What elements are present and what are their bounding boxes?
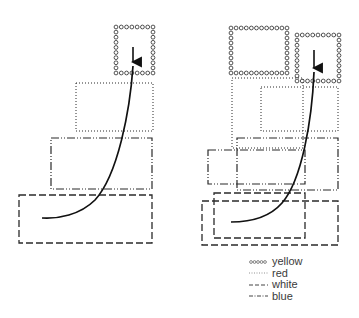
legend-label: blue <box>272 291 293 303</box>
left-blue-box <box>51 138 152 189</box>
right-panel <box>202 26 341 245</box>
legend-label: white <box>272 279 298 291</box>
left-white-box <box>19 195 152 243</box>
legend-swatch-dotted-icon <box>249 270 269 276</box>
legend-item-blue: blue <box>249 291 303 303</box>
left-yellow-box <box>114 25 155 75</box>
legend-swatch-circles-icon <box>249 259 269 265</box>
legend-swatch-dashdot-icon <box>249 293 269 299</box>
legend-item-white: white <box>249 279 303 291</box>
right-blue-box-1 <box>237 138 338 190</box>
left-panel <box>19 25 155 243</box>
right-trajectory-path <box>231 72 314 222</box>
right-white-box-1 <box>214 193 305 238</box>
diagram-canvas <box>0 0 359 318</box>
legend: yellow red white blue <box>249 256 303 302</box>
right-yellow-box-2 <box>295 33 341 83</box>
right-blue-box-2 <box>208 150 305 184</box>
right-red-box-2 <box>261 87 338 131</box>
legend-swatch-dashed-icon <box>249 282 269 288</box>
right-yellow-box-1 <box>229 26 289 75</box>
legend-label: yellow <box>272 256 303 268</box>
legend-item-yellow: yellow <box>249 256 303 268</box>
left-red-box <box>76 83 153 131</box>
